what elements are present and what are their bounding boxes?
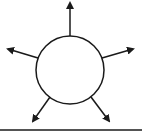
arrow-upper-left-icon	[8, 49, 38, 58]
arrow-upper-right-icon	[102, 49, 133, 58]
arrow-lower-right-icon	[91, 97, 109, 121]
arrow-lower-left-icon	[33, 97, 50, 121]
force-diagram	[0, 0, 142, 133]
body-circle	[36, 36, 104, 104]
